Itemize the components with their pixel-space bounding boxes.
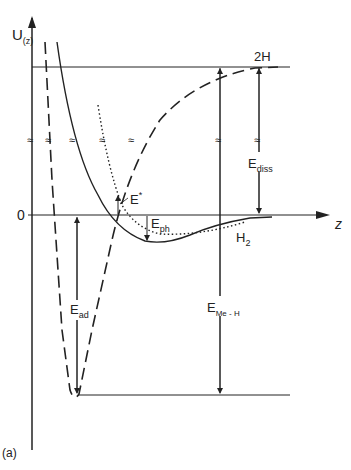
svg-text:≈: ≈: [128, 134, 134, 146]
y-axis: [28, 16, 36, 450]
e-star-label: E*: [130, 190, 143, 207]
e-ph-label: Eph: [151, 216, 170, 234]
potential-energy-diagram: U(z) z 0 2H ≈ ≈ ≈ ≈ ≈ ≈ ≈ E* Eph H2 Edis…: [0, 0, 351, 470]
axis-break-marks: ≈ ≈ ≈ ≈ ≈ ≈ ≈: [27, 134, 260, 146]
h2-label: H2: [236, 230, 250, 248]
svg-text:≈: ≈: [69, 134, 75, 146]
y-axis-label: U(z): [12, 26, 33, 46]
svg-text:≈: ≈: [45, 134, 51, 146]
x-axis: [28, 211, 330, 219]
svg-text:≈: ≈: [27, 134, 33, 146]
y-axis-arrow-icon: [28, 16, 36, 28]
zero-label: 0: [17, 207, 25, 223]
x-axis-label: z: [334, 216, 342, 232]
two-h-label: 2H: [254, 49, 271, 64]
x-axis-arrow-icon: [316, 211, 330, 219]
svg-text:≈: ≈: [99, 134, 105, 146]
panel-label: (a): [2, 446, 17, 460]
